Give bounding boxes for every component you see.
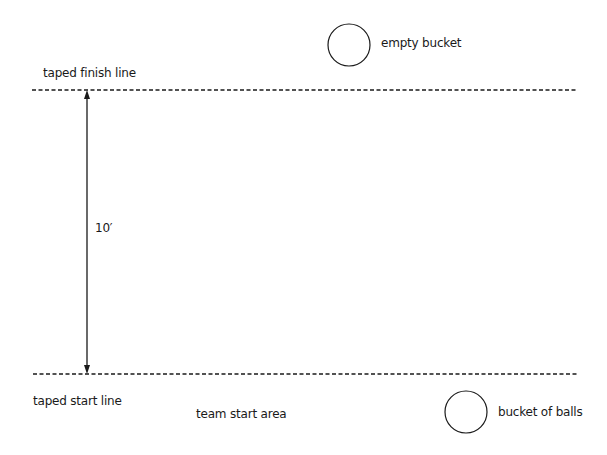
empty-bucket-icon: [328, 24, 370, 66]
start-line-label: taped start line: [33, 394, 122, 408]
bucket-of-balls-icon: [445, 391, 487, 433]
distance-label: 10′: [95, 221, 112, 235]
bucket-of-balls-label: bucket of balls: [498, 405, 583, 419]
empty-bucket-label: empty bucket: [381, 36, 461, 50]
distance-arrow-icon: [84, 90, 90, 374]
team-start-area-label: team start area: [196, 407, 286, 421]
finish-line-label: taped finish line: [43, 66, 136, 80]
